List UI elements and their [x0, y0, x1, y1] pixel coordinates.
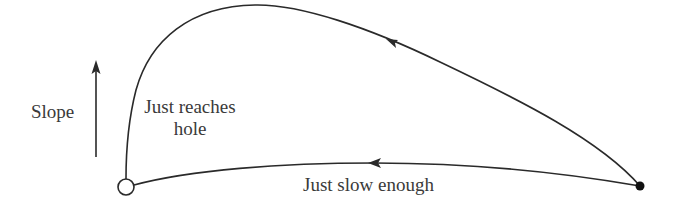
upper-arrow-icon — [386, 39, 398, 48]
just-reaches-line2: hole — [134, 118, 246, 140]
slope-arrow-icon — [92, 60, 101, 157]
just-slow-enough-label: Just slow enough — [303, 174, 434, 196]
trajectory-diagram: Slope Just reaches hole Just slow enough — [0, 0, 678, 213]
hole-icon — [118, 179, 134, 195]
just-reaches-line1: Just reaches — [134, 96, 246, 118]
ball-icon — [636, 182, 645, 191]
slope-label: Slope — [31, 101, 74, 123]
just-reaches-hole-label: Just reaches hole — [134, 96, 246, 140]
